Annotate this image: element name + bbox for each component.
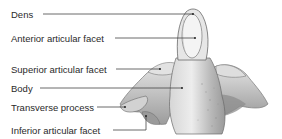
label-body: Body xyxy=(11,83,33,94)
label-inferior-articular-facet: Inferior articular facet xyxy=(11,125,100,136)
anatomy-figure: Dens Anterior articular facet Superior a… xyxy=(0,0,282,139)
leader-inferior-articular-facet xyxy=(113,116,146,130)
right-superior-facet xyxy=(216,65,246,78)
label-superior-articular-facet: Superior articular facet xyxy=(11,64,107,75)
label-anterior-articular-facet: Anterior articular facet xyxy=(11,33,104,44)
label-transverse-process: Transverse process xyxy=(11,102,94,113)
label-dens: Dens xyxy=(11,9,33,20)
